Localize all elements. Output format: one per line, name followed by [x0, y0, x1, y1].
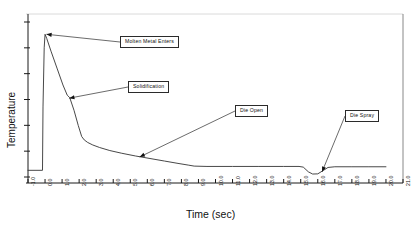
x-tick-label: 3.0: [98, 179, 104, 186]
annotation-solidification: Solidification: [128, 81, 169, 93]
x-tick-label: 8.0: [183, 179, 189, 186]
x-tick-label: 1.0: [64, 179, 70, 186]
x-tick-label: 11.0: [235, 176, 241, 186]
x-tick-label: 0.0: [47, 179, 53, 186]
temperature-curve: [28, 34, 386, 174]
x-tick-label: 16.0: [320, 176, 326, 186]
x-tick-label: 4.0: [115, 179, 121, 186]
chart-figure: Molten Metal Enters Solidification Die O…: [0, 0, 416, 232]
x-tick-label: 21.0: [405, 176, 411, 186]
y-axis-title: Temperature: [6, 92, 17, 148]
x-tick-label: 19.0: [371, 176, 377, 186]
x-tick-label: 6.0: [149, 179, 155, 186]
x-tick-label: 15.0: [303, 176, 309, 186]
annotation-die-open: Die Open: [235, 105, 268, 117]
x-tick-label: 14.0: [286, 176, 292, 186]
annotation-arrowheads: [46, 33, 326, 172]
annotation-molten-metal-enters: Molten Metal Enters: [120, 36, 179, 48]
x-tick-label: 12.0: [252, 176, 258, 186]
x-tick-label: 9.0: [200, 179, 206, 186]
x-tick-label: 10.0: [218, 176, 224, 186]
annotation-die-spray: Die Spray: [345, 110, 379, 122]
annotation-leader-lines: [46, 34, 345, 172]
x-tick-label: 20.0: [388, 176, 394, 186]
x-tick-label: 7.0: [166, 179, 172, 186]
x-tick-label: 13.0: [269, 176, 275, 186]
y-axis-ticks: [24, 22, 30, 177]
x-tick-label: 18.0: [354, 176, 360, 186]
x-tick-label: 5.0: [132, 179, 138, 186]
x-tick-label: -1.0: [30, 177, 36, 186]
x-axis-title: Time (sec): [186, 208, 235, 220]
x-tick-label: 17.0: [337, 176, 343, 186]
x-tick-label: 2.0: [81, 179, 87, 186]
